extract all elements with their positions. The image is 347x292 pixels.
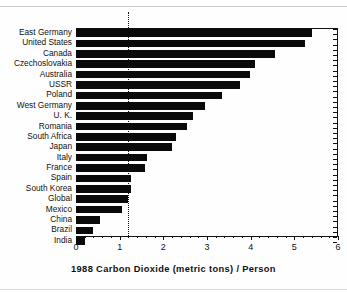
bar <box>76 185 131 193</box>
bar-rows: East GermanyUnited StatesCanadaCzechoslo… <box>0 28 347 246</box>
category-label: East Germany <box>0 27 72 37</box>
category-label: Spain <box>0 172 72 182</box>
bar <box>76 227 93 235</box>
bar <box>76 112 193 120</box>
category-label: Canada <box>0 48 72 58</box>
bar <box>76 29 312 37</box>
x-minor-tick <box>277 236 278 238</box>
x-tick-label: 5 <box>282 242 306 252</box>
category-label: U. K. <box>0 110 72 120</box>
bar <box>76 102 205 110</box>
axis-title: 1988 Carbon Dioxide (metric tons) / Pers… <box>0 264 347 274</box>
bar <box>76 195 128 203</box>
bar <box>76 175 131 183</box>
x-minor-tick <box>128 236 129 238</box>
x-minor-tick <box>216 236 217 238</box>
chart-page: East GermanyUnited StatesCanadaCzechoslo… <box>0 0 347 292</box>
bar <box>76 50 275 58</box>
x-tick-label: 6 <box>326 242 347 252</box>
x-tick-label: 3 <box>195 242 219 252</box>
x-minor-tick <box>321 236 322 238</box>
bar <box>76 164 145 172</box>
category-label: Poland <box>0 89 72 99</box>
x-tick-label: 2 <box>151 242 175 252</box>
category-label: Mexico <box>0 204 72 214</box>
x-minor-tick <box>146 236 147 238</box>
bar <box>76 143 172 151</box>
x-minor-tick <box>224 236 225 238</box>
bar <box>76 206 122 214</box>
x-minor-tick <box>329 236 330 238</box>
x-tick-label: 0 <box>64 242 88 252</box>
bar <box>76 154 147 162</box>
category-label: Romania <box>0 121 72 131</box>
x-minor-tick <box>268 236 269 238</box>
x-minor-tick <box>242 236 243 238</box>
category-label: United States <box>0 37 72 47</box>
category-label: Japan <box>0 141 72 151</box>
x-minor-tick <box>155 236 156 238</box>
category-label: Czechoslovakia <box>0 58 72 68</box>
category-label: Australia <box>0 69 72 79</box>
x-minor-tick <box>286 236 287 238</box>
category-label: West Germany <box>0 100 72 110</box>
bar <box>76 81 240 89</box>
category-label: Global <box>0 193 72 203</box>
category-label: South Korea <box>0 183 72 193</box>
x-minor-tick <box>93 236 94 238</box>
bar <box>76 133 176 141</box>
category-label: India <box>0 235 72 245</box>
x-tick <box>338 236 339 240</box>
category-label: Brazil <box>0 224 72 234</box>
bar-chart: East GermanyUnited StatesCanadaCzechoslo… <box>0 0 347 292</box>
bar <box>76 71 250 79</box>
x-tick-label: 1 <box>108 242 132 252</box>
bar <box>76 92 222 100</box>
bar <box>76 60 255 68</box>
bar <box>76 123 187 131</box>
x-minor-tick <box>172 236 173 238</box>
x-minor-tick <box>303 236 304 238</box>
x-minor-tick <box>102 236 103 238</box>
bar <box>76 216 100 224</box>
x-minor-tick <box>233 236 234 238</box>
x-tick <box>120 236 121 240</box>
x-minor-tick <box>181 236 182 238</box>
x-tick <box>163 236 164 240</box>
category-label: Italy <box>0 152 72 162</box>
category-label: USSR <box>0 79 72 89</box>
category-label: France <box>0 162 72 172</box>
x-minor-tick <box>259 236 260 238</box>
x-tick-label: 4 <box>239 242 263 252</box>
x-minor-tick <box>198 236 199 238</box>
x-tick <box>76 236 77 240</box>
x-minor-tick <box>190 236 191 238</box>
category-label: South Africa <box>0 131 72 141</box>
x-minor-tick <box>111 236 112 238</box>
x-minor-tick <box>137 236 138 238</box>
x-tick <box>251 236 252 240</box>
x-minor-tick <box>312 236 313 238</box>
x-tick <box>207 236 208 240</box>
category-label: China <box>0 214 72 224</box>
x-minor-tick <box>85 236 86 238</box>
bar <box>76 40 305 48</box>
x-tick <box>294 236 295 240</box>
